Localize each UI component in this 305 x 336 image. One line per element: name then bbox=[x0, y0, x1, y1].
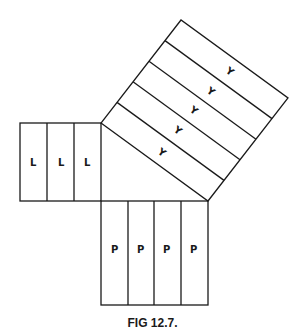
hypotenuse-strip-label: Y bbox=[204, 84, 218, 98]
bottom-strip-label: P bbox=[190, 244, 197, 255]
hypotenuse-divider bbox=[149, 61, 256, 139]
hypotenuse-divider bbox=[133, 82, 240, 160]
hypotenuse-strip-label: Y bbox=[155, 145, 169, 159]
left-strip-label: L bbox=[30, 157, 37, 168]
pythagorean-diagram: L L L P P P P Y Y Y Y Y bbox=[0, 0, 305, 336]
bottom-strip-label: P bbox=[111, 244, 118, 255]
left-strip-label: L bbox=[84, 157, 91, 168]
bottom-strip-label: P bbox=[163, 244, 170, 255]
hypotenuse-strip-label: Y bbox=[171, 123, 185, 137]
bottom-strip-label: P bbox=[137, 244, 144, 255]
hypotenuse-strip-label: Y bbox=[223, 64, 237, 78]
figure-caption: FIG 12.7. bbox=[0, 316, 305, 330]
left-strip-label: L bbox=[58, 157, 65, 168]
hypotenuse-divider bbox=[117, 102, 224, 180]
hypotenuse-strip-label: Y bbox=[187, 103, 201, 117]
hypotenuse-divider bbox=[165, 41, 272, 119]
